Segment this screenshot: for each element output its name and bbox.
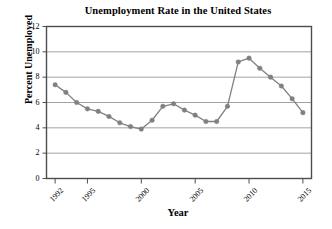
data-point xyxy=(225,104,230,109)
unemployment-markers xyxy=(53,56,305,132)
data-point xyxy=(64,90,69,95)
data-point xyxy=(117,120,122,125)
data-point xyxy=(257,66,262,71)
y-tick-label: 4 xyxy=(20,123,40,132)
data-point xyxy=(268,75,273,80)
data-point xyxy=(214,119,219,124)
data-point xyxy=(301,110,306,115)
data-point xyxy=(74,100,79,105)
data-point xyxy=(96,109,101,114)
data-point xyxy=(171,101,176,106)
data-point xyxy=(107,114,112,119)
data-point xyxy=(128,124,133,129)
y-tick-label: 2 xyxy=(20,148,40,157)
x-axis-ticks xyxy=(55,179,303,184)
y-tick-label: 10 xyxy=(20,47,40,56)
y-tick-label: 12 xyxy=(20,22,40,31)
data-point xyxy=(247,56,252,61)
data-point xyxy=(139,127,144,132)
data-point xyxy=(236,60,241,65)
chart-figure: Unemployment Rate in the United States P… xyxy=(0,0,332,229)
data-point xyxy=(161,104,166,109)
y-tick-label: 6 xyxy=(20,98,40,107)
data-point xyxy=(85,107,90,112)
series-path xyxy=(55,58,303,129)
data-point xyxy=(182,108,187,113)
data-point xyxy=(150,118,155,123)
y-tick-label: 0 xyxy=(20,174,40,183)
unemployment-line xyxy=(55,58,303,129)
chart-title: Unemployment Rate in the United States xyxy=(44,5,312,16)
data-point xyxy=(290,96,295,101)
y-tick-label: 8 xyxy=(20,72,40,81)
data-point xyxy=(279,84,284,89)
data-point xyxy=(53,82,58,87)
data-point xyxy=(193,113,198,118)
data-point xyxy=(204,119,209,124)
y-axis-label: Percent Unemployed xyxy=(23,0,34,130)
grid-lines xyxy=(47,52,312,153)
